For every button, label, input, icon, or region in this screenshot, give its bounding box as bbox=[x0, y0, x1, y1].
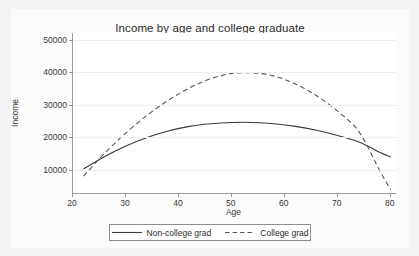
legend-item-non-college-grad: Non-college grad bbox=[112, 228, 212, 238]
gridline bbox=[73, 137, 396, 138]
x-axis-title: Age bbox=[72, 207, 395, 217]
plot-inner bbox=[73, 33, 396, 193]
plot-area bbox=[72, 33, 396, 194]
x-tick-mark bbox=[337, 193, 338, 197]
y-tick-mark bbox=[69, 105, 73, 106]
y-axis-tick-labels: 5000040000300002000010000 bbox=[22, 33, 67, 193]
y-tick-label: 50000 bbox=[43, 35, 67, 45]
legend: Non-college grad College grad bbox=[109, 224, 311, 241]
solid-line-icon bbox=[112, 229, 142, 236]
x-tick-mark bbox=[231, 193, 232, 197]
x-tick-mark bbox=[390, 193, 391, 197]
dashed-line-icon bbox=[225, 229, 255, 236]
y-tick-label: 40000 bbox=[43, 67, 67, 77]
x-tick-mark bbox=[125, 193, 126, 197]
x-tick-mark bbox=[284, 193, 285, 197]
x-tick-mark bbox=[178, 193, 179, 197]
gridline bbox=[73, 72, 396, 73]
y-axis-title-area: Income bbox=[8, 33, 22, 193]
gridline bbox=[73, 40, 396, 41]
y-axis-title: Income bbox=[10, 99, 20, 127]
series-lines bbox=[73, 33, 396, 193]
gridline bbox=[73, 170, 396, 171]
series-line bbox=[84, 73, 391, 190]
y-tick-label: 10000 bbox=[43, 165, 67, 175]
graph-card: Income by age and college graduate Incom… bbox=[11, 9, 409, 248]
legend-item-college-grad: College grad bbox=[225, 228, 308, 238]
legend-label: Non-college grad bbox=[147, 228, 212, 238]
gridline bbox=[73, 105, 396, 106]
series-line bbox=[84, 122, 391, 169]
x-tick-mark bbox=[72, 193, 73, 197]
y-tick-mark bbox=[69, 40, 73, 41]
y-tick-mark bbox=[69, 137, 73, 138]
y-tick-label: 30000 bbox=[43, 100, 67, 110]
legend-label: College grad bbox=[260, 228, 308, 238]
y-tick-label: 20000 bbox=[43, 132, 67, 142]
y-tick-mark bbox=[69, 72, 73, 73]
y-tick-mark bbox=[69, 170, 73, 171]
